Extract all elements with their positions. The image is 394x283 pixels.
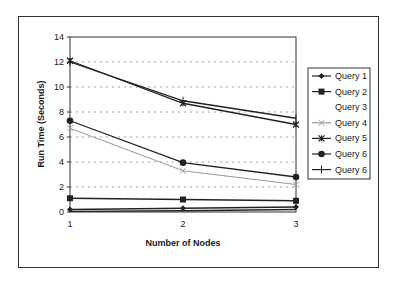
y-tick-label: 12 (54, 57, 64, 67)
y-tick-label: 8 (59, 107, 64, 117)
y-tick-label: 6 (59, 132, 64, 142)
legend-label: Query 5 (335, 133, 367, 143)
series-5 (67, 58, 299, 128)
x-axis-title: Number of Nodes (145, 238, 220, 248)
legend-item: Query 3 (335, 102, 367, 112)
y-tick-label: 2 (59, 182, 64, 192)
x-tick-label: 2 (180, 219, 185, 229)
x-tick-label: 1 (67, 219, 72, 229)
legend-label: Query 6 (335, 149, 367, 159)
legend-label: Query 4 (335, 118, 367, 128)
y-tick-label: 0 (59, 207, 64, 217)
series-lines (67, 58, 300, 213)
plot-area (70, 37, 296, 212)
y-tick-label: 4 (59, 157, 64, 167)
series-2 (67, 195, 299, 204)
legend-label: Query 6 (335, 165, 367, 175)
legend-label: Query 2 (335, 87, 367, 97)
series-4 (67, 125, 299, 187)
x-tick-label: 3 (293, 219, 298, 229)
legend-label: Query 3 (335, 102, 367, 112)
line-chart: 02468101214 123 Run Time (Seconds) Numbe… (0, 0, 394, 283)
series-7 (70, 58, 296, 122)
y-tick-label: 14 (54, 32, 64, 42)
y-axis-title: Run Time (Seconds) (36, 81, 46, 168)
y-tick-label: 10 (54, 82, 64, 92)
y-axis-ticks: 02468101214 (54, 32, 70, 217)
gridlines (70, 62, 296, 187)
legend-label: Query 1 (335, 71, 367, 81)
legend: Query 1Query 2Query 3Query 4Query 5Query… (308, 68, 370, 179)
x-axis-ticks: 123 (67, 219, 298, 229)
